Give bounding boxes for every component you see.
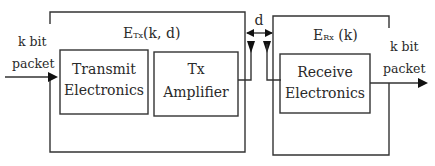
output-label-line1: k bit: [390, 39, 419, 54]
receive-antenna: [263, 41, 281, 80]
output-arrow: [370, 78, 428, 88]
output-label-line2: packet: [383, 61, 425, 76]
tx-amplifier-block: Tx Amplifier: [154, 52, 238, 116]
distance-label: d: [255, 12, 264, 28]
receive-energy-label: ERx (k): [313, 27, 358, 43]
transmit-energy-label: ETx(k, d): [123, 25, 180, 41]
receive-electronics-label-line2: Electronics: [285, 85, 365, 101]
input-label-line1: k bit: [18, 34, 47, 49]
transmit-electronics-label-line2: Electronics: [64, 82, 144, 98]
tx-amplifier-label-line2: Amplifier: [162, 84, 229, 100]
transmit-electronics-block: Transmit Electronics: [60, 50, 148, 114]
transmit-antenna-icon: [247, 41, 255, 53]
input-label-line2: packet: [12, 56, 54, 71]
tx-amplifier-label-line1: Tx: [187, 61, 204, 77]
radio-energy-model-diagram: k bit packet ETx(k, d) Transmit Electron…: [0, 0, 435, 166]
receive-electronics-label-line1: Receive: [297, 64, 353, 80]
transmit-electronics-label-line1: Transmit: [72, 61, 136, 77]
transmit-antenna: [238, 41, 255, 80]
receive-electronics-block: Receive Electronics: [280, 54, 370, 113]
input-arrow: [5, 72, 58, 82]
